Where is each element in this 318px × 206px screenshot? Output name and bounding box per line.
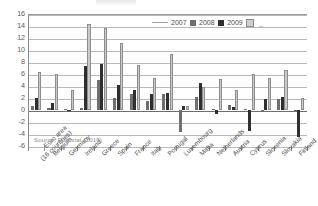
y-tick-label-8: 8 <box>1 58 25 65</box>
y-tick-label--2: -2 <box>1 118 25 125</box>
bar-group <box>77 14 93 146</box>
legend-label-2007: 2007 <box>171 19 187 26</box>
y-tick-label--4: -4 <box>1 130 25 137</box>
y-axis: 1614121086420-2-4-6 <box>0 14 25 146</box>
bar-2009 <box>104 28 107 110</box>
bar-2008 <box>297 110 300 137</box>
y-tick-label-4: 4 <box>1 82 25 89</box>
bar-group <box>28 14 44 146</box>
y-tick-label-16: 16 <box>1 10 25 17</box>
y-tick-label-2: 2 <box>1 94 25 101</box>
legend-label-2008: 2008 <box>199 19 215 26</box>
y-tick-label-12: 12 <box>1 34 25 41</box>
bar-2008 <box>248 110 251 131</box>
bar-2007 <box>261 110 264 111</box>
legend-label-2009: 2009 <box>227 19 243 26</box>
bar-2009 <box>153 78 156 110</box>
bar-group <box>176 14 192 146</box>
y-tick-label-0: 0 <box>1 106 25 113</box>
bar-group <box>274 14 290 146</box>
source-note: Source: Eurostat (2010) <box>34 136 102 143</box>
y-tick-label-6: 6 <box>1 70 25 77</box>
bar-2009 <box>235 90 238 110</box>
legend-swatch-2009 <box>246 19 254 27</box>
legend: 2007 2008 2009 _ <box>152 16 312 29</box>
bar-2009 <box>137 65 140 110</box>
bars-layer <box>28 14 307 146</box>
legend-leading-rule <box>152 22 168 23</box>
bar-2009 <box>186 106 189 110</box>
bar-2007 <box>179 110 182 132</box>
legend-swatch-2007 <box>190 20 196 26</box>
bar-2009 <box>202 87 205 110</box>
bar-2009 <box>120 43 123 110</box>
legend-item-2008: 2008 <box>199 19 224 26</box>
bar-2009 <box>268 78 271 110</box>
bar-chart: 1614121086420-2-4-6 Euro area(16 countri… <box>0 0 318 206</box>
legend-swatch-2008 <box>218 20 224 26</box>
scan-artifact <box>96 0 136 6</box>
bar-group <box>241 14 257 146</box>
bar-group <box>143 14 159 146</box>
bar-group <box>126 14 142 146</box>
bar-2008 <box>215 110 218 114</box>
bar-2009 <box>71 90 74 110</box>
y-tick-label-14: 14 <box>1 22 25 29</box>
bar-group <box>225 14 241 146</box>
bar-group <box>258 14 274 146</box>
bar-group <box>110 14 126 146</box>
bar-2009 <box>219 79 222 110</box>
y-tick-label-10: 10 <box>1 46 25 53</box>
bar-group <box>159 14 175 146</box>
legend-item-2009: 2009 <box>227 19 254 27</box>
bar-2008 <box>67 110 70 111</box>
bar-2009 <box>252 74 255 110</box>
bar-group <box>44 14 60 146</box>
bar-2009 <box>284 70 287 110</box>
bar-2009 <box>55 74 58 110</box>
bar-2009 <box>87 24 90 110</box>
legend-trailing-marker: _ <box>259 19 263 26</box>
legend-item-2007: 2007 <box>171 19 196 26</box>
bar-2009 <box>301 98 304 110</box>
bar-group <box>291 14 307 146</box>
bar-group <box>209 14 225 146</box>
y-tick-label--6: -6 <box>1 142 25 149</box>
bar-group <box>94 14 110 146</box>
bar-2009 <box>170 54 173 110</box>
x-axis-labels: Euro area(16 countries)BelgiumGermanyIre… <box>28 150 318 206</box>
bar-2009 <box>38 72 41 110</box>
bar-group <box>192 14 208 146</box>
